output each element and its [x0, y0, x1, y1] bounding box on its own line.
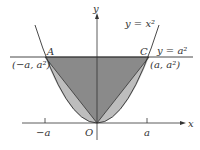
- x-axis-arrow-icon: [180, 121, 186, 125]
- point-C-coords: (a, a²): [150, 59, 180, 70]
- point-C-label: C: [140, 46, 148, 57]
- tick-label-pos-a: a: [144, 127, 150, 138]
- line-equation-label: y = a²: [156, 45, 187, 56]
- parabola-diagram: y x O −a a y = x² y = a² A C (−a, a²) (a…: [0, 0, 200, 150]
- y-axis-label: y: [92, 3, 99, 14]
- tick-label-neg-a: −a: [36, 127, 50, 138]
- origin-label: O: [85, 127, 93, 138]
- point-A-label: A: [46, 46, 54, 57]
- x-axis-label: x: [188, 118, 194, 129]
- point-A-coords: (−a, a²): [12, 59, 51, 70]
- parabola-equation-label: y = x²: [124, 18, 155, 29]
